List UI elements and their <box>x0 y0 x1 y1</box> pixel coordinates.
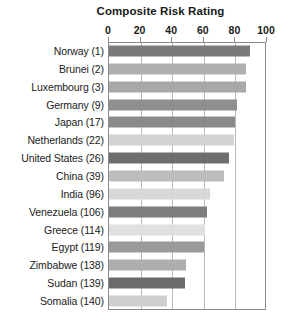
bar <box>109 99 237 110</box>
category-label: Zimbabwe (138) <box>30 259 104 271</box>
bar-row: Netherlands (22) <box>0 131 293 149</box>
bar-row: Greece (114) <box>0 221 293 239</box>
bar <box>109 188 210 199</box>
category-label: Japan (17) <box>55 116 104 128</box>
bar <box>109 135 234 146</box>
bar-row: China (39) <box>0 167 293 185</box>
x-tick-label: 40 <box>165 24 177 36</box>
category-label: Somalia (140) <box>40 295 104 307</box>
bar <box>109 170 224 181</box>
bar <box>109 260 186 271</box>
composite-risk-rating-chart: Composite Risk Rating 020406080100 Norwa… <box>0 0 293 330</box>
x-tick-label: 60 <box>197 24 209 36</box>
bar <box>109 63 246 74</box>
bar <box>109 81 246 92</box>
category-label: India (96) <box>61 188 104 200</box>
bar-row: Egypt (119) <box>0 239 293 257</box>
x-tick-label: 0 <box>105 24 111 36</box>
bar <box>109 242 204 253</box>
bar-row: Sudan (139) <box>0 274 293 292</box>
bar <box>109 117 235 128</box>
bar-row: Japan (17) <box>0 113 293 131</box>
bar <box>109 296 167 307</box>
category-label: Greece (114) <box>44 224 104 236</box>
bar <box>109 278 185 289</box>
bar-row: Luxembourg (3) <box>0 78 293 96</box>
category-label: United States (26) <box>21 152 104 164</box>
bar-row: Somalia (140) <box>0 292 293 310</box>
chart-title: Composite Risk Rating <box>0 5 293 17</box>
bar <box>109 153 229 164</box>
category-label: Brunei (2) <box>59 63 104 75</box>
category-label: Egypt (119) <box>52 241 104 253</box>
bar-rows: Norway (1)Brunei (2)Luxembourg (3)German… <box>0 42 293 310</box>
x-axis-tick-labels: 020406080100 <box>0 24 293 38</box>
bar-row: Norway (1) <box>0 42 293 60</box>
bar-row: Venezuela (106) <box>0 203 293 221</box>
bar <box>109 206 207 217</box>
category-label: Venezuela (106) <box>29 206 104 218</box>
category-label: China (39) <box>56 170 104 182</box>
bar-row: Brunei (2) <box>0 60 293 78</box>
bar <box>109 224 205 235</box>
x-tick-label: 20 <box>134 24 146 36</box>
category-label: Luxembourg (3) <box>31 81 104 93</box>
category-label: Netherlands (22) <box>27 134 104 146</box>
bar-row: United States (26) <box>0 149 293 167</box>
x-tick-label: 80 <box>229 24 241 36</box>
category-label: Sudan (139) <box>47 277 104 289</box>
bar-row: Zimbabwe (138) <box>0 256 293 274</box>
bar-row: India (96) <box>0 185 293 203</box>
bar-row: Germany (9) <box>0 96 293 114</box>
bar <box>109 45 250 56</box>
category-label: Norway (1) <box>54 45 104 57</box>
category-label: Germany (9) <box>46 99 104 111</box>
x-tick-label: 100 <box>257 24 275 36</box>
